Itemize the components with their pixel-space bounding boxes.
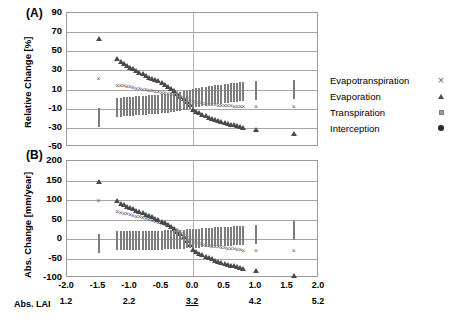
data-point bbox=[291, 256, 297, 274]
data-point bbox=[201, 88, 203, 106]
data-point bbox=[214, 86, 216, 104]
data-point bbox=[195, 89, 197, 107]
data-point bbox=[126, 98, 128, 116]
data-point bbox=[129, 232, 131, 250]
gridline bbox=[67, 128, 317, 129]
data-point bbox=[126, 232, 128, 250]
data-point bbox=[236, 227, 238, 245]
data-point bbox=[142, 97, 144, 115]
legend-item-label: Interception bbox=[330, 123, 380, 134]
data-point bbox=[293, 81, 295, 99]
data-point bbox=[253, 251, 259, 269]
legend-item: Interception bbox=[330, 120, 448, 136]
data-point bbox=[148, 96, 150, 114]
legend-item: Evaporation bbox=[330, 88, 448, 104]
triangle-marker bbox=[436, 91, 446, 101]
y-axis-tick-label: -10 bbox=[28, 102, 62, 113]
data-point bbox=[154, 232, 156, 250]
y-axis-tick-label: -30 bbox=[28, 121, 62, 132]
figure-container: (A) (B) Relative Change [%] Abs. Change … bbox=[0, 0, 450, 324]
data-point bbox=[217, 86, 219, 104]
panel-b-plot-area: ××××××××××××××××××××××××××××××××××××××××… bbox=[66, 160, 318, 277]
lai-tick-label: 3.2 bbox=[175, 296, 209, 306]
data-point bbox=[195, 230, 197, 248]
data-point bbox=[138, 232, 140, 250]
data-point bbox=[211, 87, 213, 105]
data-point bbox=[255, 82, 257, 100]
data-point bbox=[186, 92, 188, 110]
data-point bbox=[224, 85, 226, 103]
data-point bbox=[161, 232, 163, 250]
data-point bbox=[201, 229, 203, 247]
data-point bbox=[240, 108, 246, 126]
reference-line bbox=[193, 161, 194, 276]
legend-item: Evapotranspiration× bbox=[330, 72, 448, 88]
x-axis-tick-label: 2.0 bbox=[301, 280, 335, 290]
data-point bbox=[179, 93, 181, 111]
data-point: × bbox=[96, 189, 100, 207]
data-point bbox=[255, 226, 257, 244]
y-axis-tick-label: 90 bbox=[28, 6, 62, 17]
data-point bbox=[148, 232, 150, 250]
data-point bbox=[208, 87, 210, 105]
x-axis-tick-label: 0.5 bbox=[207, 280, 241, 290]
data-point bbox=[220, 228, 222, 246]
data-point bbox=[167, 231, 169, 249]
data-point bbox=[205, 88, 207, 106]
data-point bbox=[98, 235, 100, 253]
square-marker bbox=[436, 107, 446, 117]
circle-marker bbox=[436, 123, 446, 133]
cross-marker: × bbox=[436, 75, 446, 85]
data-point bbox=[189, 91, 191, 109]
data-point bbox=[135, 97, 137, 115]
data-point bbox=[224, 228, 226, 246]
legend-item-label: Transpiration bbox=[330, 107, 385, 118]
x-axis-tick-label: -1.5 bbox=[81, 280, 115, 290]
data-point bbox=[135, 232, 137, 250]
data-point bbox=[230, 84, 232, 102]
data-point: × bbox=[292, 239, 296, 257]
gridline bbox=[67, 51, 317, 52]
y-axis-tick-label: 10 bbox=[28, 83, 62, 94]
data-point bbox=[179, 231, 181, 249]
x-axis-tick-label: 1.0 bbox=[238, 280, 272, 290]
y-axis-tick-label: 0 bbox=[28, 232, 62, 243]
data-point bbox=[176, 93, 178, 111]
data-point bbox=[176, 231, 178, 249]
data-point bbox=[253, 110, 259, 128]
data-point bbox=[240, 249, 246, 267]
y-axis-tick-label: 200 bbox=[28, 154, 62, 165]
data-point bbox=[120, 99, 122, 117]
data-point bbox=[236, 84, 238, 102]
data-point bbox=[129, 98, 131, 116]
gridline bbox=[67, 259, 317, 260]
lai-tick-label: 5.2 bbox=[301, 296, 335, 306]
data-point bbox=[116, 99, 118, 117]
data-point bbox=[151, 96, 153, 114]
data-point bbox=[293, 222, 295, 240]
lai-axis-label: Abs. LAI bbox=[14, 299, 51, 309]
data-point bbox=[291, 114, 297, 132]
y-axis-tick-label: 30 bbox=[28, 63, 62, 74]
data-point bbox=[132, 98, 134, 116]
y-axis-tick-label: 50 bbox=[28, 44, 62, 55]
data-point bbox=[123, 98, 125, 116]
gridline bbox=[67, 181, 317, 182]
data-point bbox=[142, 232, 144, 250]
data-point bbox=[205, 229, 207, 247]
data-point bbox=[157, 96, 159, 114]
gridline bbox=[67, 32, 317, 33]
data-point bbox=[173, 94, 175, 112]
data-point bbox=[164, 95, 166, 113]
y-axis-tick-label: 150 bbox=[28, 174, 62, 185]
data-point bbox=[170, 231, 172, 249]
data-point: × bbox=[96, 67, 100, 85]
data-point bbox=[239, 227, 241, 245]
lai-tick-label: 4.2 bbox=[238, 296, 272, 306]
data-point bbox=[242, 227, 244, 245]
legend-item-label: Evapotranspiration bbox=[330, 75, 409, 86]
gridline bbox=[67, 200, 317, 201]
data-point bbox=[211, 229, 213, 247]
legend: Evapotranspiration×EvaporationTranspirat… bbox=[330, 72, 448, 136]
y-axis-tick-label: 100 bbox=[28, 193, 62, 204]
